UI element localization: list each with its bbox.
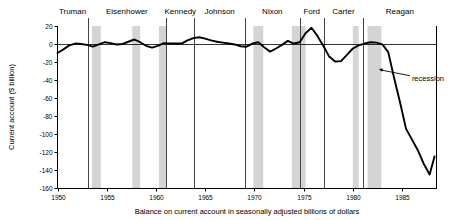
president-label: Nixon — [262, 7, 282, 16]
y-axis-tick-label: -140 — [39, 167, 52, 174]
recession-annotation-label: recession — [412, 74, 444, 83]
x-axis-tick-label: 1970 — [247, 194, 262, 201]
president-label: Reagan — [386, 7, 414, 16]
x-axis-tick-label: 1950 — [51, 194, 66, 201]
chart-caption: Balance on current account in seasonally… — [135, 207, 360, 216]
recession-band — [92, 26, 101, 188]
current-account-line-chart: TrumanEisenhowerKennedyJohnsonNixonFordC… — [0, 0, 456, 220]
president-label: Johnson — [205, 7, 235, 16]
recession-band — [132, 26, 140, 188]
x-axis-tick-label: 1980 — [346, 194, 361, 201]
x-axis-tick-label: 1965 — [198, 194, 213, 201]
y-axis-tick-label: -60 — [43, 95, 53, 102]
president-label: Truman — [59, 7, 86, 16]
x-axis-tick-label: 1960 — [149, 194, 164, 201]
chart-background — [0, 0, 456, 220]
y-axis-tick-label: -100 — [39, 131, 52, 138]
x-axis-tick-label: 1985 — [395, 194, 410, 201]
y-axis-tick-label: -160 — [39, 185, 52, 192]
recession-band — [368, 26, 382, 188]
recession-band — [353, 26, 359, 188]
x-axis-tick-label: 1955 — [100, 194, 115, 201]
recession-band — [253, 26, 263, 188]
y-axis-tick-label: -20 — [43, 59, 53, 66]
president-label: Carter — [332, 7, 355, 16]
president-label: Kennedy — [165, 7, 197, 16]
y-axis-tick-label: -80 — [43, 113, 53, 120]
recession-band — [159, 26, 167, 188]
y-axis-tick-label: 20 — [45, 23, 53, 30]
recession-band — [292, 26, 306, 188]
chart-figure: TrumanEisenhowerKennedyJohnsonNixonFordC… — [0, 0, 456, 220]
president-label: Ford — [303, 7, 319, 16]
y-axis-tick-label: -120 — [39, 149, 52, 156]
y-axis-title: Current account ($ billion) — [7, 64, 16, 150]
y-axis-tick-label: 0 — [49, 41, 53, 48]
y-axis-tick-label: -40 — [43, 77, 53, 84]
president-label: Eisenhower — [106, 7, 148, 16]
x-axis-tick-label: 1975 — [297, 194, 312, 201]
